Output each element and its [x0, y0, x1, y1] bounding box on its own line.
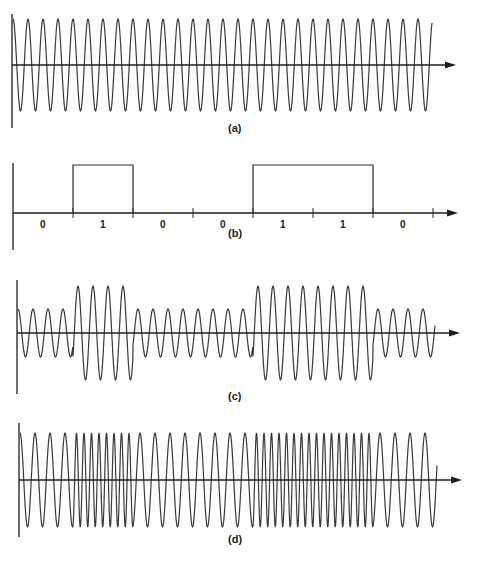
bit-label: 1	[280, 219, 286, 230]
panel-c-label: (c)	[228, 390, 242, 402]
panel-d-label: (d)	[228, 533, 242, 545]
panel-b-label: (b)	[228, 227, 242, 239]
panel-c-ask-signal: (c)	[17, 280, 460, 402]
bit-label: 0	[220, 219, 226, 230]
panel-a-label: (a)	[228, 122, 242, 134]
panel-a-carrier: (a)	[12, 14, 456, 134]
bit-label: 1	[100, 219, 106, 230]
panel-b-arrow-icon	[447, 210, 458, 217]
bit-label: 0	[40, 219, 46, 230]
modulation-figure: (a) 0100110 (b) (c) (d)	[0, 0, 478, 561]
panel-b-digital-signal: 0100110 (b)	[13, 163, 458, 250]
panel-d-fsk-signal: (d)	[19, 423, 462, 545]
panel-c-arrow-icon	[449, 330, 460, 337]
bit-label: 0	[400, 219, 406, 230]
panel-d-arrow-icon	[451, 477, 462, 484]
panel-b-pulse-train	[73, 165, 373, 213]
bit-label: 0	[160, 219, 166, 230]
panel-a-arrow-icon	[445, 62, 456, 69]
panel-b-bit-labels: 0100110	[40, 219, 406, 230]
bit-label: 1	[340, 219, 346, 230]
